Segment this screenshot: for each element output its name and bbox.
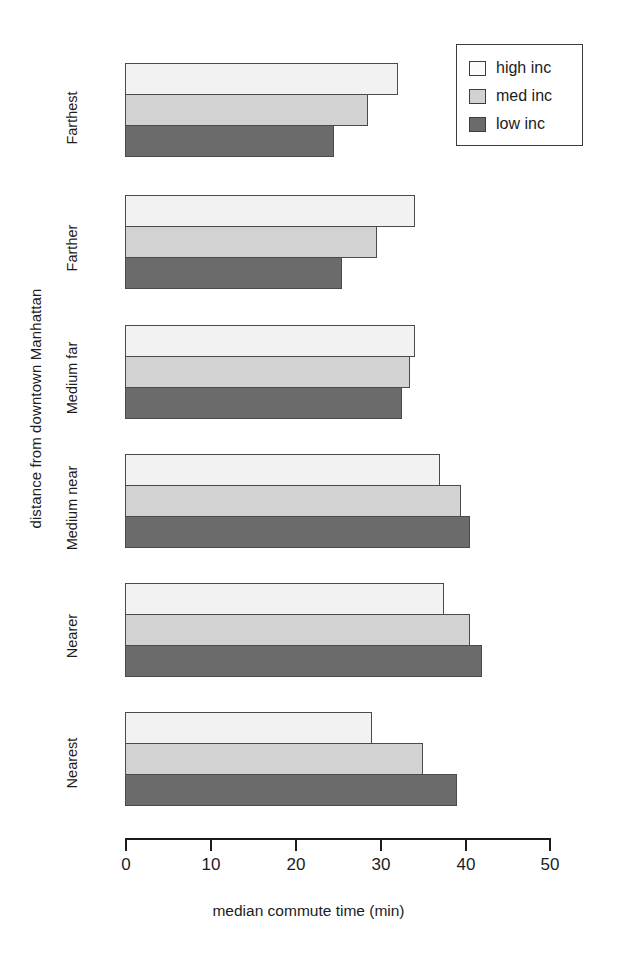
bar-nearer-low-inc bbox=[125, 645, 482, 677]
legend-item-high-inc: high inc bbox=[469, 56, 551, 80]
x-axis-line bbox=[125, 838, 551, 840]
legend-item-med-inc: med inc bbox=[469, 84, 552, 108]
bar-medium-near-high-inc bbox=[125, 454, 440, 486]
x-tick-0 bbox=[125, 838, 127, 851]
bar-farther-low-inc bbox=[125, 257, 342, 289]
x-tick-label-0: 0 bbox=[106, 855, 146, 875]
bar-farther-high-inc bbox=[125, 195, 415, 227]
bar-nearest-low-inc bbox=[125, 774, 457, 806]
bar-farthest-high-inc bbox=[125, 63, 398, 95]
x-tick-40 bbox=[465, 838, 467, 851]
x-axis-title: median commute time (min) bbox=[0, 902, 617, 920]
bar-nearer-high-inc bbox=[125, 583, 444, 615]
x-tick-50 bbox=[549, 838, 551, 851]
x-tick-30 bbox=[380, 838, 382, 851]
x-tick-20 bbox=[295, 838, 297, 851]
legend-label-high-inc: high inc bbox=[496, 59, 551, 77]
x-tick-label-20: 20 bbox=[276, 855, 316, 875]
legend-swatch-high-inc-icon bbox=[469, 61, 486, 76]
x-tick-label-10: 10 bbox=[191, 855, 231, 875]
bar-medium-far-low-inc bbox=[125, 387, 402, 419]
bar-nearest-med-inc bbox=[125, 743, 423, 775]
x-tick-label-30: 30 bbox=[361, 855, 401, 875]
bar-nearer-med-inc bbox=[125, 614, 470, 646]
legend-label-low-inc: low inc bbox=[496, 115, 545, 133]
x-tick-label-40: 40 bbox=[446, 855, 486, 875]
x-tick-label-50: 50 bbox=[530, 855, 570, 875]
bar-chart: distance from downtown Manhattan Farthes… bbox=[0, 0, 617, 972]
bar-medium-far-med-inc bbox=[125, 356, 410, 388]
x-tick-10 bbox=[210, 838, 212, 851]
bar-medium-far-high-inc bbox=[125, 325, 415, 357]
legend-swatch-med-inc-icon bbox=[469, 89, 486, 104]
legend-swatch-low-inc-icon bbox=[469, 117, 486, 132]
bar-farthest-low-inc bbox=[125, 125, 334, 157]
bar-nearest-high-inc bbox=[125, 712, 372, 744]
legend-label-med-inc: med inc bbox=[496, 87, 552, 105]
bar-farther-med-inc bbox=[125, 226, 377, 258]
legend-item-low-inc: low inc bbox=[469, 112, 545, 136]
bar-farthest-med-inc bbox=[125, 94, 368, 126]
bar-medium-near-med-inc bbox=[125, 485, 461, 517]
legend: high inc med inc low inc bbox=[456, 44, 583, 146]
bar-medium-near-low-inc bbox=[125, 516, 470, 548]
